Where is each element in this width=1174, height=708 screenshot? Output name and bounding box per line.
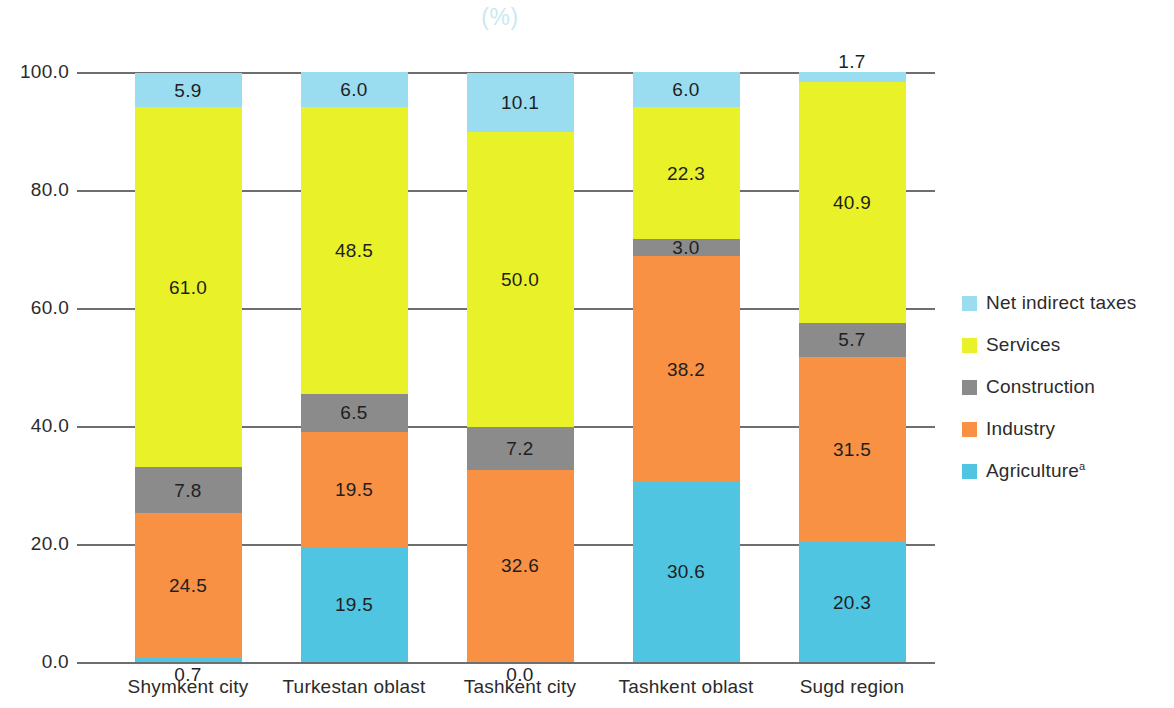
legend-swatch <box>962 296 977 311</box>
legend-label: Industry <box>986 418 1055 440</box>
y-axis-tick-label: 40.0 <box>31 415 69 437</box>
bar-segment[interactable]: 10.1 <box>467 73 574 133</box>
legend-item[interactable]: Services <box>962 324 1172 366</box>
bar-segment-value: 38.2 <box>667 360 705 379</box>
bar-segment-value: 3.0 <box>672 238 699 257</box>
legend-label: Services <box>986 334 1060 356</box>
bar-segment-value: 7.2 <box>506 439 533 458</box>
bar-segment-value: 6.0 <box>340 80 367 99</box>
bar-segment-value: 6.0 <box>672 80 699 99</box>
y-axis-tick <box>77 190 105 192</box>
stacked-bar[interactable]: 30.638.23.022.36.0 <box>633 72 740 662</box>
bar-segment-value: 32.6 <box>501 556 539 575</box>
bar-segment-value: 5.7 <box>838 330 865 349</box>
bar-segment[interactable]: 48.5 <box>301 107 408 393</box>
chart-title: (%) <box>0 4 1000 31</box>
stacked-bar[interactable]: 20.331.55.740.91.7 <box>799 72 906 662</box>
bar-segment[interactable]: 40.9 <box>799 82 906 323</box>
y-axis-tick <box>77 426 105 428</box>
bar-segment-value: 19.5 <box>335 595 373 614</box>
bar-segment-value: 40.9 <box>833 193 871 212</box>
legend-label: Agriculturea <box>986 460 1085 482</box>
bar-segment-value: 5.9 <box>174 81 201 100</box>
y-axis-tick <box>77 308 105 310</box>
y-axis-tick-label: 20.0 <box>31 533 69 555</box>
bar-segment[interactable]: 19.5 <box>301 432 408 547</box>
bar-segment-value: 31.5 <box>833 440 871 459</box>
bar-segment[interactable]: 7.2 <box>467 427 574 469</box>
y-axis-tick <box>77 72 105 74</box>
bar-segment[interactable]: 61.0 <box>135 107 242 467</box>
legend-label-superscript: a <box>1079 460 1085 472</box>
bar-segment[interactable]: 1.7 <box>799 72 906 82</box>
bar-segment[interactable]: 19.5 <box>301 547 408 662</box>
bar-segment[interactable]: 5.9 <box>135 73 242 108</box>
bar-segment-value: 48.5 <box>335 241 373 260</box>
bar-segment[interactable]: 6.5 <box>301 394 408 432</box>
bar-segment[interactable]: 0.7 <box>135 658 242 662</box>
legend-swatch <box>962 422 977 437</box>
bar-segment[interactable]: 32.6 <box>467 470 574 662</box>
x-axis-tick-label: Shymkent city <box>128 676 249 698</box>
legend-swatch <box>962 464 977 479</box>
bar-segment-value: 50.0 <box>501 270 539 289</box>
y-axis-tick-label: 0.0 <box>42 651 69 673</box>
x-axis-tick-label: Sugd region <box>800 676 905 698</box>
bar-segment[interactable]: 3.0 <box>633 239 740 257</box>
legend-label: Construction <box>986 376 1095 398</box>
bar-segment-value: 20.3 <box>833 593 871 612</box>
bar-segment-value: 6.5 <box>340 403 367 422</box>
x-axis-tick-label: Turkestan oblast <box>283 676 426 698</box>
bar-segment[interactable]: 24.5 <box>135 513 242 658</box>
bar-segment[interactable]: 38.2 <box>633 256 740 481</box>
bar-segment-value: 19.5 <box>335 480 373 499</box>
bar-segment-value: 22.3 <box>667 164 705 183</box>
bar-segment[interactable]: 6.0 <box>633 72 740 107</box>
bar-segment[interactable]: 22.3 <box>633 107 740 238</box>
legend-label: Net indirect taxes <box>986 292 1136 314</box>
bar-segment[interactable]: 7.8 <box>135 467 242 513</box>
stacked-bar[interactable]: 0.724.57.861.05.9 <box>135 72 242 662</box>
y-axis-tick <box>77 544 105 546</box>
y-axis-tick-label: 100.0 <box>20 61 69 83</box>
bar-segment-value: 10.1 <box>501 93 539 112</box>
plot-area: 0.020.040.060.080.0100.0 0.724.57.861.05… <box>105 72 935 662</box>
bar-segment[interactable]: 5.7 <box>799 323 906 357</box>
x-axis-tick-label: Tashkent oblast <box>618 676 753 698</box>
bar-segment[interactable]: 20.3 <box>799 542 906 662</box>
bar-segment[interactable]: 31.5 <box>799 357 906 543</box>
bar-segment[interactable]: 50.0 <box>467 132 574 427</box>
x-axis-tick-label: Tashkent city <box>464 676 576 698</box>
legend: Net indirect taxesServicesConstructionIn… <box>962 282 1172 492</box>
bar-segment-value: 1.7 <box>838 52 865 71</box>
legend-swatch <box>962 338 977 353</box>
bar-segment-value: 7.8 <box>174 481 201 500</box>
y-axis-tick <box>77 662 105 664</box>
legend-swatch <box>962 380 977 395</box>
stacked-bar[interactable]: 19.519.56.548.56.0 <box>301 72 408 662</box>
legend-item[interactable]: Industry <box>962 408 1172 450</box>
bar-segment-value: 24.5 <box>169 576 207 595</box>
legend-item[interactable]: Net indirect taxes <box>962 282 1172 324</box>
y-axis-tick-label: 80.0 <box>31 179 69 201</box>
bar-segment-value: 30.6 <box>667 562 705 581</box>
bar-segment-value: 61.0 <box>169 278 207 297</box>
bar-segment[interactable]: 6.0 <box>301 72 408 107</box>
legend-item[interactable]: Construction <box>962 366 1172 408</box>
y-axis-tick-label: 60.0 <box>31 297 69 319</box>
stacked-bar[interactable]: 0.032.67.250.010.1 <box>467 72 574 662</box>
legend-item[interactable]: Agriculturea <box>962 450 1172 492</box>
bar-segment[interactable]: 30.6 <box>633 482 740 662</box>
